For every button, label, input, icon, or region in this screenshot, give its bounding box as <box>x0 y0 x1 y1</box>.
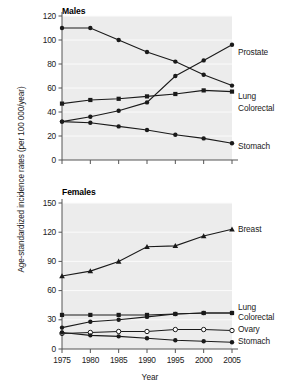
y-tick-label: 40 <box>18 107 56 117</box>
data-point <box>145 336 149 340</box>
data-point <box>173 92 177 96</box>
data-point <box>202 88 206 92</box>
series-label-prostate: Prostate <box>238 47 268 57</box>
data-point <box>230 90 234 94</box>
data-point <box>116 109 120 113</box>
x-axis-title: Year <box>55 372 245 382</box>
data-point <box>60 330 64 334</box>
plot-background <box>62 203 232 349</box>
data-point <box>88 333 92 337</box>
y-tick-label: 60 <box>18 83 56 93</box>
data-point <box>88 121 92 125</box>
series-label-colorectal: Colorectal <box>238 312 274 322</box>
data-point <box>173 59 177 63</box>
data-point <box>230 141 234 145</box>
data-point <box>201 136 205 140</box>
data-point <box>117 97 121 101</box>
data-point <box>230 340 234 344</box>
data-point <box>173 327 177 331</box>
y-tick-label: 90 <box>18 256 56 266</box>
data-point <box>145 50 149 54</box>
y-tick-label: 100 <box>18 35 56 45</box>
data-point <box>88 115 92 119</box>
data-point <box>116 318 120 322</box>
data-point <box>145 329 149 333</box>
data-point <box>88 98 92 102</box>
series-label-colorectal: Colorectal <box>238 103 274 113</box>
data-point <box>117 313 121 317</box>
data-point <box>60 102 64 106</box>
y-tick-label: 80 <box>18 59 56 69</box>
data-point <box>173 133 177 137</box>
y-tick-label: 120 <box>18 227 56 237</box>
x-tick-label: 2005 <box>215 355 249 365</box>
y-tick-label: 0 <box>18 344 56 354</box>
data-point <box>230 83 234 87</box>
data-point <box>116 334 120 338</box>
y-tick-label: 0 <box>18 155 56 165</box>
data-point <box>60 26 64 30</box>
data-point <box>116 124 120 128</box>
data-point <box>201 339 205 343</box>
data-point <box>116 38 120 42</box>
series-label-breast: Breast <box>238 224 261 234</box>
data-point <box>230 311 234 315</box>
data-point <box>201 311 205 315</box>
data-point <box>230 328 234 332</box>
series-label-stomach: Stomach <box>238 336 270 346</box>
data-point <box>60 313 64 317</box>
data-point <box>60 325 64 329</box>
series-label-stomach: Stomach <box>238 141 270 151</box>
cancer-incidence-figure: Age-standardized incidence rates (per 10… <box>0 0 308 390</box>
data-point <box>173 338 177 342</box>
data-point <box>145 100 149 104</box>
y-tick-label: 150 <box>18 198 56 208</box>
y-tick-label: 120 <box>18 11 56 21</box>
data-point <box>201 327 205 331</box>
data-point <box>201 58 205 62</box>
data-point <box>173 312 177 316</box>
y-tick-label: 30 <box>18 314 56 324</box>
data-point <box>145 315 149 319</box>
data-point <box>145 128 149 132</box>
data-point <box>88 313 92 317</box>
data-point <box>230 43 234 47</box>
data-point <box>173 74 177 78</box>
data-point <box>116 329 120 333</box>
data-point <box>88 320 92 324</box>
series-label-lung: Lung <box>238 302 256 312</box>
data-point <box>60 119 64 123</box>
y-tick-label: 20 <box>18 131 56 141</box>
data-point <box>88 26 92 30</box>
data-point <box>145 94 149 98</box>
series-label-ovary: Ovary <box>238 324 260 334</box>
series-label-lung: Lung <box>238 91 256 101</box>
data-point <box>201 73 205 77</box>
y-tick-label: 60 <box>18 285 56 295</box>
